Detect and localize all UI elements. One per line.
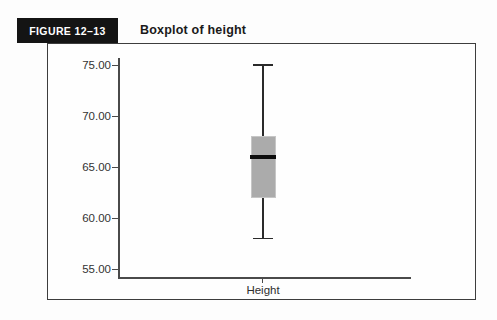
y-tick-mark xyxy=(112,218,118,219)
x-tick-mark xyxy=(262,279,263,283)
y-tick-label: 60.00 xyxy=(69,212,111,224)
chart-frame: 75.0070.0065.0060.0055.00 Height xyxy=(47,43,476,300)
y-tick-mark xyxy=(112,269,118,270)
upper-whisker-line xyxy=(262,65,264,136)
x-axis-label: Height xyxy=(223,284,303,296)
y-tick-label: 75.00 xyxy=(69,59,111,71)
lower-whisker-line xyxy=(262,198,264,239)
x-axis-line xyxy=(118,277,411,279)
y-tick-mark xyxy=(112,116,118,117)
y-axis-line xyxy=(118,58,120,278)
y-tick-label: 65.00 xyxy=(69,161,111,173)
y-tick-mark xyxy=(112,167,118,168)
figure-title: Boxplot of height xyxy=(140,23,246,37)
figure-number-label: FIGURE 12–13 xyxy=(17,18,118,43)
figure-container: FIGURE 12–13 Boxplot of height 75.0070.0… xyxy=(0,0,497,320)
upper-whisker-cap xyxy=(253,64,273,66)
y-tick-mark xyxy=(112,65,118,66)
iqr-box xyxy=(251,136,276,197)
lower-whisker-cap xyxy=(253,238,273,240)
y-tick-label: 70.00 xyxy=(69,110,111,122)
y-tick-label: 55.00 xyxy=(69,263,111,275)
median-line xyxy=(250,155,276,159)
